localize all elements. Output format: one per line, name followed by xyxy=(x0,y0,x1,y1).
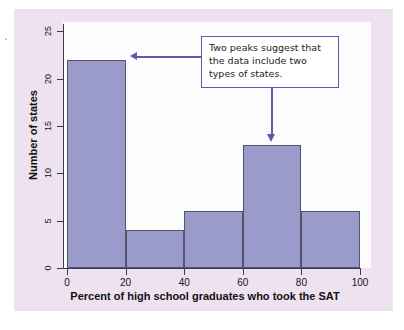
y-tick-5 xyxy=(57,221,63,222)
bar-40-60 xyxy=(184,211,243,268)
y-tick-10 xyxy=(57,173,63,174)
bar-80-100 xyxy=(301,211,360,268)
annotation-text: Two peaks suggest that the data include … xyxy=(209,41,332,80)
x-axis-line xyxy=(64,268,361,269)
x-tick-label-0: 0 xyxy=(52,277,82,288)
x-tick-label-40: 40 xyxy=(169,277,199,288)
x-tick-label-100: 100 xyxy=(345,277,375,288)
annotation-arrow-left-icon xyxy=(130,52,137,60)
y-tick-label-0: 0 xyxy=(40,263,55,273)
annotation-callout-box: Two peaks suggest that the data include … xyxy=(201,36,339,88)
scan-artifact-speck xyxy=(5,38,7,40)
x-tick-0 xyxy=(67,269,68,275)
y-axis-line xyxy=(63,24,64,269)
y-tick-label-20: 20 xyxy=(40,74,55,84)
x-tick-60 xyxy=(243,269,244,275)
annotation-arrow-down-icon xyxy=(267,134,275,142)
y-tick-label-text: 10 xyxy=(43,166,53,181)
y-tick-label-text: 15 xyxy=(43,119,53,134)
x-tick-label-60: 60 xyxy=(228,277,258,288)
x-tick-80 xyxy=(301,269,302,275)
x-tick-label-80: 80 xyxy=(286,277,316,288)
bar-60-80 xyxy=(243,145,302,268)
y-tick-25 xyxy=(57,31,63,32)
y-axis-title: Number of states xyxy=(26,70,40,200)
x-axis-title: Percent of high school graduates who too… xyxy=(40,290,370,302)
y-tick-label-text: 20 xyxy=(43,71,53,86)
y-tick-label-25: 25 xyxy=(40,26,55,36)
y-tick-label-text: 5 xyxy=(43,213,53,228)
y-tick-label-text: 25 xyxy=(43,24,53,39)
x-tick-40 xyxy=(184,269,185,275)
bar-0-20 xyxy=(67,60,126,268)
y-tick-15 xyxy=(57,126,63,127)
y-tick-label-10: 10 xyxy=(40,168,55,178)
bar-20-40 xyxy=(126,230,185,268)
x-tick-100 xyxy=(360,269,361,275)
y-tick-label-text: 0 xyxy=(43,261,53,276)
y-tick-0 xyxy=(57,268,63,269)
y-tick-label-15: 15 xyxy=(40,121,55,131)
x-tick-20 xyxy=(126,269,127,275)
x-tick-label-20: 20 xyxy=(111,277,141,288)
annotation-leader-line-vertical xyxy=(271,88,273,136)
y-tick-20 xyxy=(57,79,63,80)
y-tick-label-5: 5 xyxy=(40,216,55,226)
annotation-leader-line-horizontal xyxy=(136,56,201,58)
